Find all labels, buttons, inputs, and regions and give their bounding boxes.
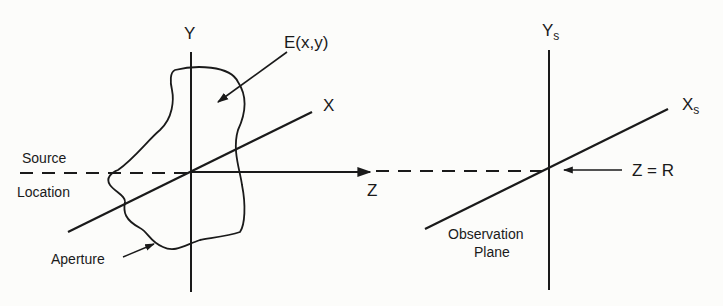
ys-axis-label: Ys [542,21,559,43]
observation-plane-group: Ys Xs Z = R Observation Plane [376,21,699,290]
z-axis-label: Z [367,181,377,200]
observation-label-line1: Observation [448,226,523,242]
aperture-plane-group: Y E(x,y) X Z Source Location Aperture [17,24,377,292]
aperture-outline [108,67,244,249]
xs-axis-label: Xs [682,95,699,117]
field-pointer-arrow [218,52,287,102]
x-axis-label: X [323,96,334,115]
diagram-canvas: Y E(x,y) X Z Source Location Aperture Ys… [0,0,723,306]
observation-label-line2: Plane [474,244,510,260]
y-axis-label: Y [184,24,195,43]
source-label-line1: Source [22,150,67,166]
aperture-label: Aperture [51,251,105,267]
aperture-pointer-arrow [123,244,154,257]
distance-label: Z = R [632,161,674,180]
field-label: E(x,y) [284,33,328,52]
source-label-line2: Location [17,184,70,200]
